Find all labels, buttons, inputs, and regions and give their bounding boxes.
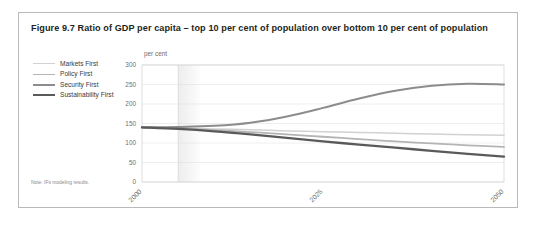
figure-card: Figure 9.7 Ratio of GDP per capita – top…: [18, 12, 518, 208]
x-axis-tick-label: 2050: [489, 188, 505, 204]
x-axis-tick-label: 2025: [308, 188, 324, 204]
y-axis-tick-label: 150: [125, 120, 136, 127]
y-axis-tick-label: 100: [125, 139, 136, 146]
plot-area: per cent050100150200250300200020252050: [19, 13, 519, 209]
y-axis-tick-label: 250: [125, 81, 136, 88]
y-axis-tick-label: 50: [129, 159, 137, 166]
x-axis-tick-label: 2000: [127, 188, 143, 204]
y-axis-unit-label: per cent: [144, 50, 167, 58]
y-axis-tick-label: 0: [132, 178, 136, 185]
y-axis-tick-label: 300: [125, 61, 136, 68]
line-chart: per cent050100150200250300200020252050: [19, 13, 519, 209]
y-axis-tick-label: 200: [125, 100, 136, 107]
